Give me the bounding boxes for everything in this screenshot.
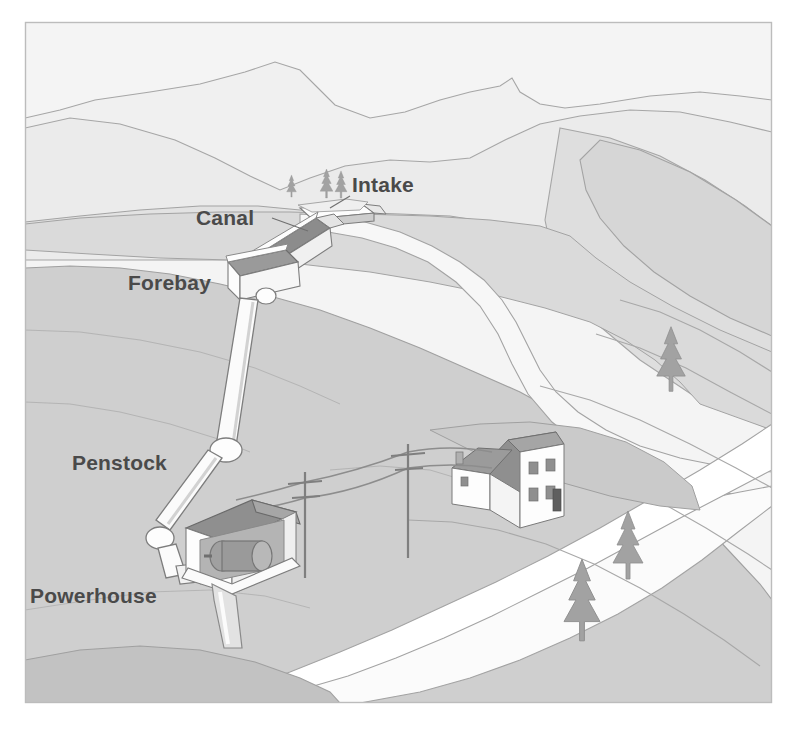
house-wall-gable: [520, 444, 564, 528]
house-chimney: [456, 452, 463, 464]
label-powerhouse: Powerhouse: [30, 584, 157, 607]
label-canal: Canal: [196, 206, 254, 229]
landscape-scene: Intake Canal Forebay Penstock Powerhouse: [25, 22, 772, 703]
label-intake: Intake: [352, 173, 414, 196]
forebay-penstock-outlet: [256, 288, 276, 304]
house-wall-wing: [452, 468, 490, 510]
hydro-scheme-figure: Intake Canal Forebay Penstock Powerhouse: [0, 0, 797, 729]
scene-illustration: Intake Canal Forebay Penstock Powerhouse: [0, 0, 797, 729]
generator-end-bell: [252, 541, 272, 571]
label-penstock: Penstock: [72, 451, 167, 474]
label-forebay: Forebay: [128, 271, 211, 294]
house-door: [553, 489, 561, 511]
